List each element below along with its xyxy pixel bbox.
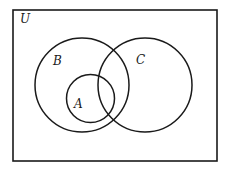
venn-diagram: U B C A xyxy=(0,0,229,171)
set-b-circle xyxy=(35,38,129,132)
set-c-label: C xyxy=(136,53,145,67)
set-b-label: B xyxy=(52,54,62,68)
set-a-label: A xyxy=(73,97,83,111)
universe-label: U xyxy=(20,12,31,26)
universe-rectangle xyxy=(13,10,217,161)
